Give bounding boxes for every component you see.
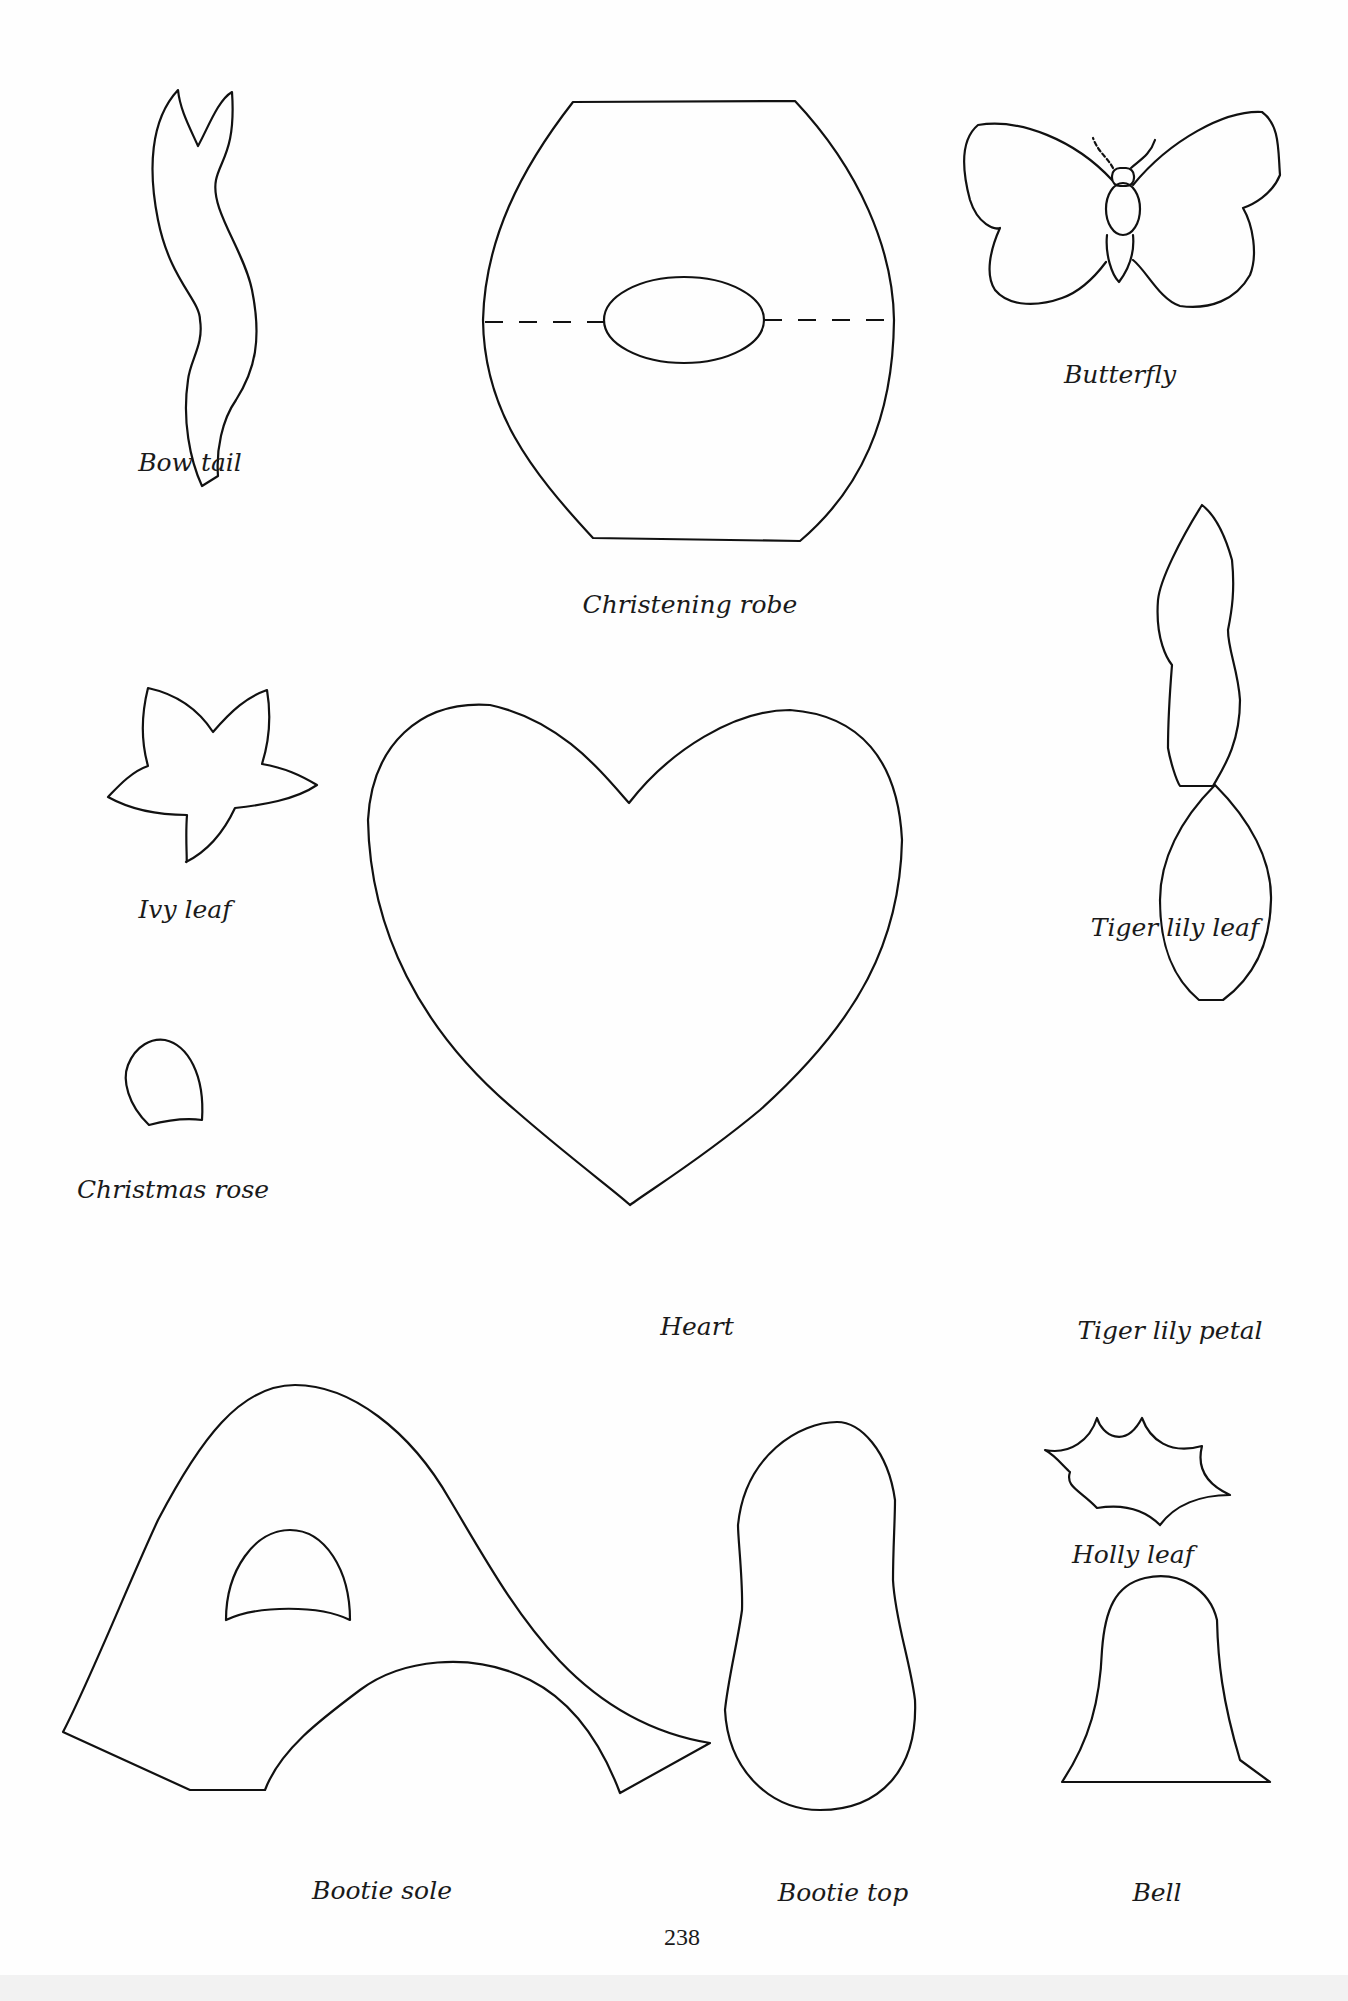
holly-leaf-label: Holly leaf (1072, 1540, 1194, 1569)
butterfly-shape (964, 112, 1280, 307)
tiger-lily-petal-label: Tiger lily petal (1077, 1316, 1262, 1345)
ivy-leaf-shape (108, 688, 317, 862)
bootie-sole-shape (63, 1385, 710, 1793)
holly-leaf-shape (1045, 1418, 1230, 1525)
bow-tail-shape (153, 90, 257, 486)
bow-tail-label: Bow tail (138, 448, 242, 477)
christening-robe-label: Christening robe (583, 590, 798, 619)
tiger-lily-leaf-shape (1158, 505, 1240, 786)
heart-label: Heart (660, 1312, 734, 1341)
christmas-rose-label: Christmas rose (77, 1175, 269, 1204)
bootie-sole-label: Bootie sole (312, 1876, 452, 1905)
page-number: 238 (664, 1924, 700, 1951)
christening-robe-neck-hole (604, 277, 764, 363)
tiger-lily-leaf-label: Tiger lily leaf (1091, 913, 1259, 942)
template-shapes (0, 0, 1348, 2001)
christmas-rose-shape (126, 1040, 203, 1125)
template-page: Bow tail Christening robe Butterfly Ivy … (0, 0, 1348, 2001)
heart-shape (368, 705, 902, 1205)
tiger-lily-petal-shape (1160, 785, 1271, 1000)
bootie-top-label: Bootie top (778, 1878, 908, 1907)
bootie-top-shape (725, 1422, 915, 1810)
bell-label: Bell (1132, 1878, 1181, 1907)
butterfly-label: Butterfly (1064, 360, 1176, 389)
scan-edge (0, 1975, 1348, 2001)
bell-shape (1062, 1576, 1270, 1782)
ivy-leaf-label: Ivy leaf (138, 895, 231, 924)
